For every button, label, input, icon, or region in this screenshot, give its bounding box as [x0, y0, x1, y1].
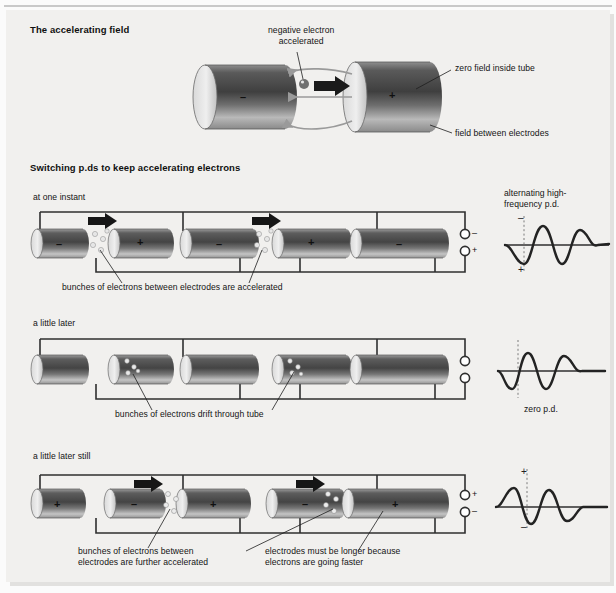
row-3-wave-top-sign: +	[521, 466, 527, 477]
row-3-bottom-label-left: bunches of electrons between electrodes …	[78, 546, 208, 567]
row-3-electrode-sign: –	[302, 498, 308, 510]
row-3-electrode-sign: +	[392, 498, 398, 510]
row-3-electrode-sign: +	[210, 498, 216, 510]
row-3-terminal-bottom[interactable]	[460, 507, 469, 516]
row-3-bottom-label-right: electrodes must be longer because electr…	[265, 546, 400, 567]
row-3-electrodes	[31, 489, 449, 518]
row-3-wave-bottom-sign: –	[521, 521, 527, 532]
diagram-root: The accelerating field	[0, 0, 616, 593]
row-3-electrode-sign: –	[131, 498, 137, 510]
row-3-terminal-bottom-sign: –	[472, 506, 477, 516]
row-3-waveform	[496, 469, 607, 528]
row-3-electrode-sign: +	[54, 498, 60, 510]
row-3-terminal-top-sign: +	[472, 489, 477, 499]
row-3-terminal-top[interactable]	[460, 490, 469, 499]
